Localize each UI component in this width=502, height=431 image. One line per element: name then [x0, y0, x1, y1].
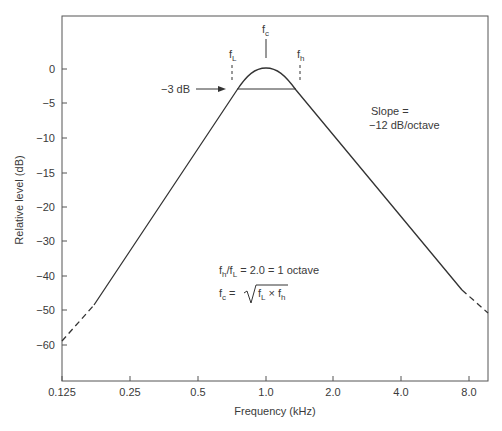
- x-axis: 0.1250.250.51.02.04.08.0: [48, 376, 476, 398]
- y-tick-label: −50: [36, 304, 55, 316]
- x-tick-label: 8.0: [461, 386, 476, 398]
- y-axis-title: Relative level (dB): [13, 155, 25, 244]
- fc-formula: fc =: [219, 287, 236, 302]
- sqrt-argument: fL × fh: [258, 287, 286, 302]
- slope-label-line2: −12 dB/octave: [369, 119, 440, 131]
- y-tick-label: −20: [36, 201, 55, 213]
- fc-label: fc: [262, 23, 269, 38]
- y-tick-label: −5: [42, 97, 55, 109]
- y-tick-label: 0: [49, 63, 55, 75]
- slope-label-line1: Slope =: [371, 105, 409, 117]
- fh-label: fh: [297, 48, 305, 63]
- y-tick-label: −40: [36, 270, 55, 282]
- y-tick-label: −10: [36, 132, 55, 144]
- x-tick-label: 4.0: [393, 386, 408, 398]
- x-tick-label: 0.125: [48, 386, 76, 398]
- curve-right-dashed-tail: [462, 290, 488, 313]
- y-tick-label: −60: [36, 339, 55, 351]
- x-tick-label: 0.25: [119, 386, 140, 398]
- y-tick-label: −30: [36, 235, 55, 247]
- x-tick-label: 2.0: [325, 386, 340, 398]
- arrow-head-icon: [218, 86, 226, 92]
- fl-label: fL: [229, 48, 237, 63]
- bandpass-response-chart: 0.1250.250.51.02.04.08.0 0−5−10−15−20−30…: [0, 0, 502, 431]
- x-axis-title: Frequency (kHz): [234, 405, 315, 417]
- minus-3db-label: −3 dB: [161, 83, 190, 95]
- plot-frame: [62, 16, 488, 381]
- octave-ratio-formula: fh/fL = 2.0 = 1 octave: [219, 264, 319, 279]
- x-tick-label: 0.5: [190, 386, 205, 398]
- y-tick-label: −15: [36, 167, 55, 179]
- x-tick-label: 1.0: [258, 386, 273, 398]
